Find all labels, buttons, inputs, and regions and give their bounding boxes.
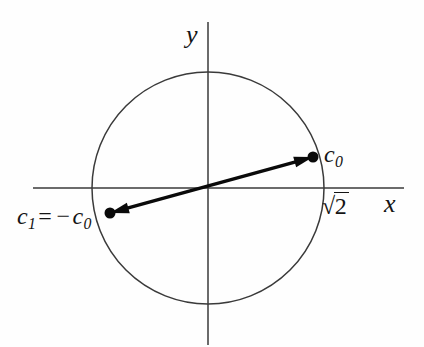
point-label-c1-base: c bbox=[17, 203, 28, 229]
point-label-c0-base: c bbox=[324, 141, 335, 167]
point-label-c1-rhs-subscript: 0 bbox=[83, 215, 91, 232]
vector-arrow-shaft bbox=[120, 160, 303, 210]
radius-label-sqrt2: √2 bbox=[322, 194, 349, 218]
equals-operator: = bbox=[36, 203, 54, 229]
y-axis-label: y bbox=[186, 22, 198, 48]
point-label-c1-rhs-base: c bbox=[73, 203, 84, 229]
point-label-c1: c1=−c0 bbox=[17, 204, 91, 232]
point-marker-c0 bbox=[308, 152, 319, 163]
point-label-c0: c0 bbox=[324, 142, 343, 170]
vector-arrow-group bbox=[110, 157, 313, 214]
point-label-c0-subscript: 0 bbox=[335, 153, 343, 170]
figure-canvas bbox=[0, 0, 424, 347]
x-axis-label: x bbox=[384, 191, 396, 217]
math-figure-unit-circle: y x c0 c1=−c0 √2 bbox=[0, 0, 424, 347]
point-marker-c1 bbox=[105, 208, 116, 219]
minus-operator: − bbox=[54, 203, 72, 229]
radicand-value: 2 bbox=[334, 192, 349, 219]
point-label-c1-subscript: 1 bbox=[28, 215, 36, 232]
